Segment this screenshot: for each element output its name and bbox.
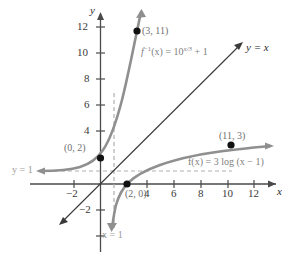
y-tick-6: 6 <box>84 99 90 110</box>
point-3-11 <box>133 27 140 34</box>
inverse-function-label: f−1(x) = 10x/3 + 1 <box>141 46 208 57</box>
point-label-0-2: (0, 2) <box>64 143 86 153</box>
point-0-2 <box>97 154 104 161</box>
inverse-fn-mid: (x) = 10 <box>151 46 183 57</box>
horizontal-asymptote-label: y = 1 <box>12 165 33 175</box>
x-axis-label: x <box>277 186 282 197</box>
inverse-function-curve <box>40 12 141 171</box>
y-axis-arrow <box>97 12 104 20</box>
log-curve-right-arrow <box>265 143 274 150</box>
inverse-fn-exponent: x/3 <box>184 45 193 53</box>
plot-canvas <box>0 0 294 264</box>
point-label-2-0: (2, 0) <box>125 189 147 199</box>
x-tick-10: 10 <box>222 188 233 199</box>
x-tick-6: 6 <box>171 188 177 199</box>
vertical-asymptote-label: x = 1 <box>102 230 123 240</box>
x-tick-12: 12 <box>248 188 259 199</box>
x-tick-8: 8 <box>198 188 204 199</box>
point-11-3 <box>227 141 234 148</box>
y-tick-neg2: −2 <box>79 204 91 215</box>
y-tick-10: 10 <box>77 47 88 58</box>
y-tick-8: 8 <box>84 73 90 84</box>
x-tick-neg2: −2 <box>66 188 78 199</box>
x-axis-arrow <box>268 181 276 188</box>
y-tick-4: 4 <box>84 125 90 136</box>
inverse-function-curve-group <box>36 9 146 175</box>
y-axis-label: y <box>90 5 95 16</box>
identity-arrow-down <box>59 217 68 225</box>
graph-figure: y x 12 10 8 6 4 −2 −2 4 6 8 10 12 (3, 11… <box>0 0 294 264</box>
inverse-curve-left-arrow <box>36 168 45 175</box>
inverse-curve-arrow <box>136 9 146 18</box>
point-label-3-11: (3, 11) <box>142 26 168 36</box>
identity-line-label: y = x <box>246 42 269 53</box>
identity-arrow-up <box>234 42 243 50</box>
inverse-fn-suffix: + 1 <box>192 46 208 57</box>
y-tick-12: 12 <box>77 21 88 32</box>
log-function-label: f(x) = 3 log (x − 1) <box>188 157 264 167</box>
point-2-0 <box>123 180 130 187</box>
point-label-11-3: (11, 3) <box>219 131 245 141</box>
